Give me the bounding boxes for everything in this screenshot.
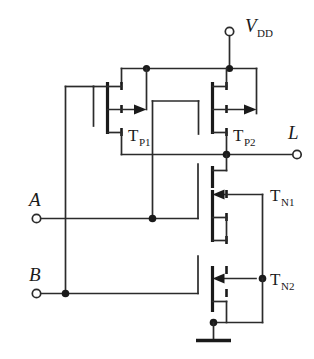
vdd-rail [122, 65, 257, 114]
tp1-label: T [128, 126, 139, 145]
input-b-terminal-circle [32, 289, 40, 297]
tn1-bulk-arrowhead [213, 190, 225, 200]
input-a-label: A [27, 189, 41, 210]
ground-symbol [196, 323, 231, 341]
output-node-l [223, 150, 301, 158]
junction-dot-input-a [149, 215, 157, 223]
vdd-terminal-circle [225, 27, 233, 35]
tp2-label: T [233, 126, 244, 145]
input-a [32, 101, 198, 223]
tn2-bulk-arrowhead [213, 274, 225, 284]
tp2-lower-leg [213, 155, 227, 189]
tp2-bulk-arrowhead [244, 105, 257, 115]
junction-dot-input-b [62, 290, 70, 298]
tn2-label: T [270, 270, 281, 289]
tn1-sublabel: N1 [281, 196, 294, 208]
transistor-tn2 [210, 266, 267, 326]
output-label: L [287, 122, 299, 143]
input-b-label: B [29, 264, 41, 285]
tp2-sublabel: P2 [244, 136, 256, 148]
tp1-sublabel: P1 [139, 136, 151, 148]
vdd-terminal [225, 27, 233, 68]
input-a-terminal-circle [32, 214, 40, 222]
tn2-sublabel: N2 [281, 280, 294, 292]
transistor-tn1 [213, 190, 263, 279]
tp1-bulk-arrowhead [134, 105, 147, 115]
tn1-label: T [270, 186, 281, 205]
circuit-schematic: V DD T P1 [0, 0, 314, 359]
input-b [32, 87, 198, 298]
vdd-sublabel: DD [257, 27, 273, 39]
output-terminal-circle [293, 150, 301, 158]
